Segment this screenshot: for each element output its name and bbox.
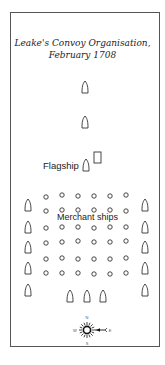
wind-arrow-icon — [95, 328, 107, 332]
escort-ship-icon — [82, 116, 88, 128]
escort-ship-icon — [25, 284, 31, 296]
escort-ship-icon — [84, 290, 90, 302]
escort-ship-icon — [142, 284, 148, 296]
merchant-row — [44, 225, 128, 230]
escort-ship-icon — [142, 221, 148, 233]
escort-ship-icon — [100, 290, 106, 302]
merchant-row — [44, 208, 128, 213]
compass-rose-icon: N S W E — [73, 315, 112, 346]
merchant-row — [44, 239, 128, 245]
merchant-row — [44, 256, 128, 261]
escort-ship-icon — [25, 241, 31, 253]
escort-ship-icon — [142, 241, 148, 253]
escort-ship-icon — [25, 199, 31, 211]
compass-south: S — [86, 341, 89, 346]
escort-ship-icon — [142, 199, 148, 211]
escort-ship-icon — [67, 290, 73, 302]
lead-escort-ships — [82, 81, 88, 128]
escort-ship-icon — [25, 262, 31, 274]
compass-north: N — [86, 315, 89, 320]
convoy-diagram: N S W E — [0, 0, 165, 365]
flagship-icon — [83, 159, 89, 171]
flagship — [83, 152, 101, 171]
merchant-row — [44, 193, 128, 199]
compass-west: W — [73, 328, 77, 333]
escort-ship-icon — [25, 221, 31, 233]
merchant-row — [44, 271, 128, 276]
escort-ship-icon — [82, 81, 88, 93]
flag-icon — [94, 152, 101, 163]
left-flank-escorts — [25, 199, 31, 296]
right-flank-escorts — [142, 199, 148, 296]
merchant-ships-grid — [44, 193, 128, 276]
compass-east: E — [109, 328, 112, 333]
rear-escort-ships — [67, 290, 106, 302]
escort-ship-icon — [142, 262, 148, 274]
